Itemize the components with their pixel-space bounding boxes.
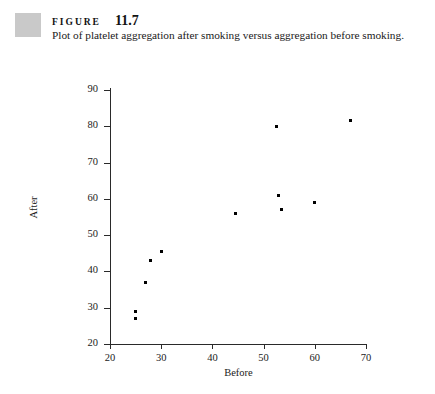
x-tick-mark (366, 344, 367, 349)
y-tick-label: 40 (68, 264, 98, 275)
figure-marker-swatch (15, 13, 41, 37)
scatter-plot-figure: 2030405060708090 203040506070 After Befo… (0, 52, 435, 394)
x-tick-mark (315, 344, 316, 349)
figure-label-word: FIGURE (52, 17, 101, 27)
scatter-point (144, 281, 147, 284)
scatter-point (134, 310, 137, 313)
scatter-point (149, 259, 152, 262)
scatter-point (313, 201, 316, 204)
y-axis-line (110, 88, 111, 346)
x-tick-label: 70 (351, 352, 381, 363)
scatter-point (275, 125, 278, 128)
y-tick-label: 30 (68, 301, 98, 312)
x-tick-label: 60 (300, 352, 330, 363)
x-tick-label: 50 (249, 352, 279, 363)
y-tick-mark (104, 163, 110, 164)
plot-area (110, 90, 366, 345)
scatter-point (349, 119, 352, 122)
figure-caption-text: Plot of platelet aggregation after smoki… (52, 28, 430, 42)
scatter-point (234, 212, 237, 215)
y-tick-mark (104, 199, 110, 200)
y-tick-mark (104, 271, 110, 272)
y-tick-label: 80 (68, 119, 98, 130)
y-tick-mark (104, 235, 110, 236)
y-tick-label: 60 (68, 192, 98, 203)
scatter-point (160, 250, 163, 253)
x-tick-label: 30 (146, 352, 176, 363)
y-axis-label: After (28, 173, 39, 243)
x-tick-mark (264, 344, 265, 349)
figure-caption-block: FIGURE11.7 Plot of platelet aggregation … (0, 0, 435, 52)
x-tick-mark (212, 344, 213, 349)
y-tick-mark (104, 90, 110, 91)
scatter-point (280, 208, 283, 211)
x-axis-label: Before (110, 367, 367, 378)
x-tick-mark (161, 344, 162, 349)
x-tick-label: 20 (95, 352, 125, 363)
y-tick-mark (104, 308, 110, 309)
x-tick-label: 40 (197, 352, 227, 363)
y-tick-mark (104, 126, 110, 127)
y-tick-label: 70 (68, 156, 98, 167)
figure-number: 11.7 (115, 13, 139, 28)
y-tick-label: 90 (68, 83, 98, 94)
scatter-point (277, 194, 280, 197)
figure-label-row: FIGURE11.7 (52, 11, 139, 29)
y-tick-label: 20 (68, 337, 98, 348)
scatter-point (134, 317, 137, 320)
x-tick-mark (110, 344, 111, 349)
y-tick-label: 50 (68, 228, 98, 239)
x-axis-line (110, 344, 367, 345)
